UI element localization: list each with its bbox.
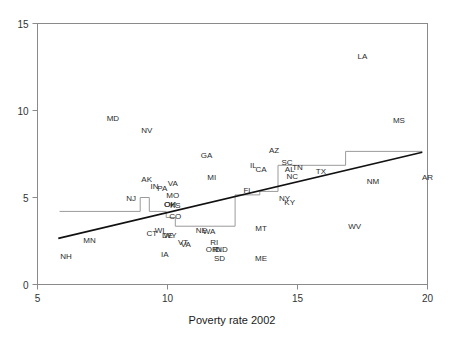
data-point-label: KY bbox=[284, 198, 295, 207]
data-point-label: CO bbox=[169, 212, 181, 221]
x-axis-title: Poverty rate 2002 bbox=[189, 314, 276, 326]
data-point-label: OK bbox=[164, 200, 176, 209]
data-point-label: IA bbox=[161, 250, 169, 259]
step-function-line bbox=[60, 151, 423, 226]
data-point-label: VA bbox=[168, 179, 179, 188]
data-point-label: NJ bbox=[126, 194, 136, 203]
data-point-label: TN bbox=[292, 163, 303, 172]
data-point-label: WA bbox=[203, 227, 216, 236]
data-point-label: CA bbox=[256, 165, 268, 174]
data-point-label: TX bbox=[316, 167, 327, 176]
data-point-label: MO bbox=[166, 191, 179, 200]
y-axis-tick-labels: 051015 bbox=[17, 19, 29, 291]
x-tick-label: 5 bbox=[35, 293, 41, 304]
data-point-label: MT bbox=[255, 224, 267, 233]
plot-canvas: 5101520 051015 NHMNMDNJNVAKINCTWIPAVAMOD… bbox=[0, 0, 455, 337]
data-point-label: NV bbox=[141, 126, 153, 135]
data-point-label: GA bbox=[201, 151, 213, 160]
data-point-label: MS bbox=[393, 116, 405, 125]
data-point-label: WV bbox=[348, 222, 362, 231]
data-point-label: VA bbox=[181, 240, 192, 249]
data-point-label: WY bbox=[164, 231, 178, 240]
x-tick-label: 20 bbox=[422, 293, 434, 304]
scatter-plot-figure: 5101520 051015 NHMNMDNJNVAKINCTWIPAVAMOD… bbox=[0, 0, 455, 337]
data-point-labels: NHMNMDNJNVAKINCTWIPAVAMODEWYOHKSOKCOIAVT… bbox=[60, 52, 433, 263]
data-point-label: ND bbox=[216, 245, 228, 254]
data-point-label: MD bbox=[107, 114, 120, 123]
x-tick-label: 10 bbox=[162, 293, 174, 304]
data-point-label: SD bbox=[214, 254, 225, 263]
regression-line bbox=[58, 152, 422, 238]
y-tick-label: 5 bbox=[23, 193, 29, 204]
data-point-label: FL bbox=[243, 186, 253, 195]
data-point-label: MI bbox=[207, 173, 216, 182]
data-point-label: NC bbox=[287, 172, 299, 181]
data-point-label: ME bbox=[255, 254, 267, 263]
data-point-label: AZ bbox=[269, 146, 279, 155]
y-tick-label: 10 bbox=[17, 106, 29, 117]
y-tick-label: 0 bbox=[23, 280, 29, 291]
x-axis-tick-labels: 5101520 bbox=[35, 293, 434, 304]
x-axis-ticks bbox=[38, 285, 428, 290]
plot-frame-border bbox=[38, 24, 428, 285]
data-point-label: NM bbox=[367, 177, 380, 186]
y-tick-label: 15 bbox=[17, 19, 29, 30]
data-point-label: AR bbox=[422, 173, 433, 182]
y-axis-ticks bbox=[33, 24, 38, 285]
data-point-label: MN bbox=[83, 236, 96, 245]
data-point-label: LA bbox=[358, 52, 368, 61]
x-tick-label: 15 bbox=[292, 293, 304, 304]
data-point-label: NH bbox=[60, 252, 72, 261]
